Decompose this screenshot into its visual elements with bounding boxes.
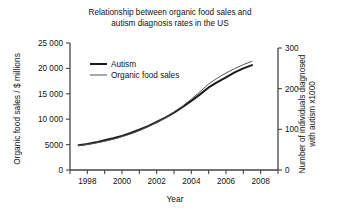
- chart-figure: Relationship between organic food sales …: [0, 0, 340, 215]
- x-tick-label: 2000: [113, 177, 132, 186]
- x-tick-label: 2006: [217, 177, 236, 186]
- y-tick-label-left: 20 000: [38, 64, 63, 73]
- legend-label-1[interactable]: Autism: [111, 60, 136, 69]
- y-tick-label-left: 10 000: [38, 115, 63, 124]
- y-tick-label-right: 200: [285, 85, 299, 94]
- y-tick-label-right: 0: [285, 166, 290, 175]
- y-tick-label-right: 300: [285, 44, 299, 53]
- y-tick-label-left: 25 000: [38, 39, 63, 48]
- y-tick-label-right: 100: [285, 125, 299, 134]
- x-tick-label: 2002: [148, 177, 167, 186]
- y-tick-label-left: 0: [58, 166, 63, 175]
- x-tick-label: 2008: [252, 177, 271, 186]
- y-tick-label-left: 15 000: [38, 90, 63, 99]
- x-tick-label: 1998: [78, 177, 97, 186]
- x-tick-label: 2004: [182, 177, 201, 186]
- plot-area: 0500010 00015 00020 00025 00001002003001…: [0, 0, 340, 215]
- y-tick-label-left: 5000: [45, 141, 64, 150]
- legend-label-2[interactable]: Organic food sales: [111, 71, 179, 80]
